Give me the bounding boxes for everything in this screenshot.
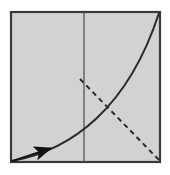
figure-root bbox=[0, 0, 170, 175]
fold-diagram-svg bbox=[0, 0, 170, 175]
